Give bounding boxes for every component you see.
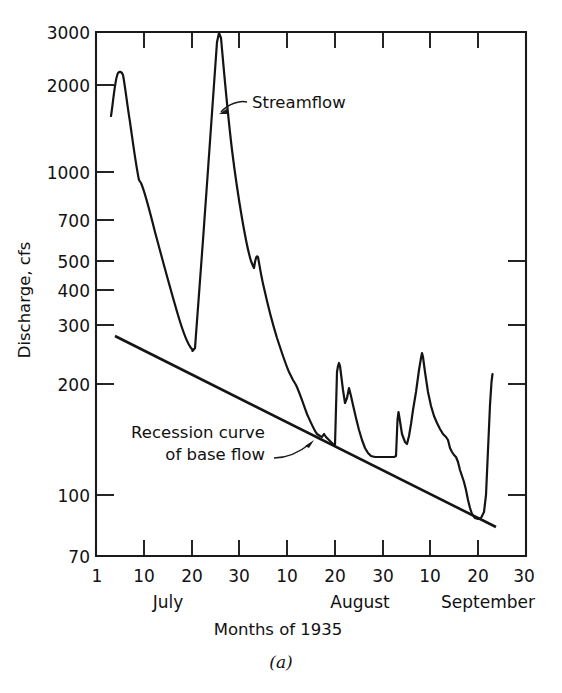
month-label-august: August bbox=[330, 592, 390, 612]
y-tick-label: 3000 bbox=[47, 23, 90, 43]
x-axis-month-labels: July August September bbox=[152, 592, 535, 612]
x-tick-label: 1 bbox=[92, 566, 103, 586]
y-axis-ticks-right bbox=[508, 261, 526, 495]
panel-label: (a) bbox=[269, 652, 292, 672]
y-tick-label: 300 bbox=[58, 316, 90, 336]
x-axis-title: Months of 1935 bbox=[214, 620, 343, 639]
y-axis-tick-labels: 3000 2000 1000 700 500 400 300 200 100 7… bbox=[47, 23, 90, 567]
x-axis-ticks-bottom bbox=[144, 540, 478, 556]
month-label-september: September bbox=[441, 592, 535, 612]
streamflow-hydrograph-chart: 3000 2000 1000 700 500 400 300 200 100 7… bbox=[0, 0, 562, 693]
x-tick-label: 10 bbox=[276, 566, 298, 586]
recession-annotation-line1: Recession curve bbox=[131, 423, 265, 442]
x-tick-label: 10 bbox=[133, 566, 155, 586]
y-tick-label: 2000 bbox=[47, 76, 90, 96]
figure-container: 3000 2000 1000 700 500 400 300 200 100 7… bbox=[0, 0, 562, 693]
y-axis-title: Discharge, cfs bbox=[15, 242, 34, 359]
x-tick-label: 30 bbox=[513, 566, 535, 586]
y-tick-label: 100 bbox=[58, 486, 90, 506]
x-tick-label: 10 bbox=[419, 566, 441, 586]
x-tick-label: 20 bbox=[324, 566, 346, 586]
x-tick-label: 30 bbox=[228, 566, 250, 586]
month-label-july: July bbox=[152, 592, 184, 612]
y-tick-label: 1000 bbox=[47, 163, 90, 183]
y-tick-label: 500 bbox=[58, 252, 90, 272]
x-axis-ticks-top bbox=[144, 32, 478, 48]
x-tick-label: 30 bbox=[372, 566, 394, 586]
x-axis-tick-labels: 1 10 20 30 10 20 30 10 20 30 bbox=[92, 566, 535, 586]
y-axis-ticks bbox=[96, 85, 114, 495]
x-tick-label: 20 bbox=[181, 566, 203, 586]
y-tick-label: 700 bbox=[58, 211, 90, 231]
x-tick-label: 20 bbox=[467, 566, 489, 586]
recession-annotation-line2: of base flow bbox=[165, 445, 265, 464]
y-tick-label: 70 bbox=[68, 547, 90, 567]
y-tick-label: 200 bbox=[58, 375, 90, 395]
y-tick-label: 400 bbox=[58, 281, 90, 301]
recession-leader-line bbox=[274, 443, 311, 458]
streamflow-annotation-label: Streamflow bbox=[252, 93, 346, 112]
